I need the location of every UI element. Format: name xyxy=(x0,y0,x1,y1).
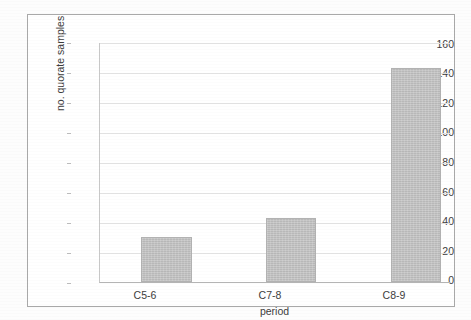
x-tick-label-c7-8: C7-8 xyxy=(224,289,316,301)
y-tickmark-100 xyxy=(67,133,71,134)
x-axis-title: period xyxy=(99,305,450,317)
y-tickmark-160 xyxy=(67,43,71,44)
bar-c5-6 xyxy=(141,237,192,282)
y-tickmark-40 xyxy=(67,223,71,224)
y-tickmark-0 xyxy=(67,283,71,284)
x-tick-label-c5-6: C5-6 xyxy=(99,289,191,301)
y-tickmark-60 xyxy=(67,193,71,194)
y-tickmark-80 xyxy=(67,163,71,164)
y-tickmark-120 xyxy=(67,103,71,104)
y-tickmark-20 xyxy=(67,253,71,254)
x-tick-label-c8-9: C8-9 xyxy=(348,289,440,301)
chart-frame: no. quorate samples 160 140 120 100 80 6… xyxy=(27,14,455,307)
bar-c7-8 xyxy=(266,218,316,283)
plot-area xyxy=(99,43,450,283)
chart-figure: no. quorate samples 160 140 120 100 80 6… xyxy=(0,0,471,320)
y-tickmark-140 xyxy=(67,73,71,74)
y-axis-title: no. quorate samples xyxy=(54,16,66,111)
bar-c8-9 xyxy=(391,68,441,283)
gridline-160 xyxy=(100,43,451,44)
